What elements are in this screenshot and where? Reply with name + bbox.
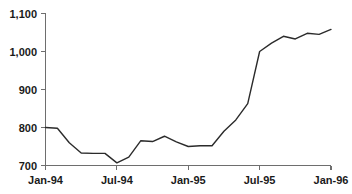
- y-tick-label-1000: 1,000: [9, 46, 37, 58]
- y-tick-label-1100: 1,100: [9, 8, 37, 20]
- line-chart: 1,100 1,000 900 800 700 Jan-94 Jul-94 Ja…: [0, 0, 352, 194]
- chart-canvas: 1,100 1,000 900 800 700 Jan-94 Jul-94 Ja…: [0, 0, 352, 194]
- y-tick-label-900: 900: [19, 84, 37, 96]
- x-tick-label-jul-95: Jul-95: [244, 174, 276, 186]
- y-tick-label-700: 700: [19, 160, 37, 172]
- x-tick-label-jan-96: Jan-96: [314, 174, 349, 186]
- x-tick-label-jul-94: Jul-94: [101, 174, 134, 186]
- x-tick-label-jan-95: Jan-95: [171, 174, 206, 186]
- x-tick-label-jan-94: Jan-94: [28, 174, 64, 186]
- y-tick-label-800: 800: [19, 122, 37, 134]
- data-series-line: [46, 29, 332, 162]
